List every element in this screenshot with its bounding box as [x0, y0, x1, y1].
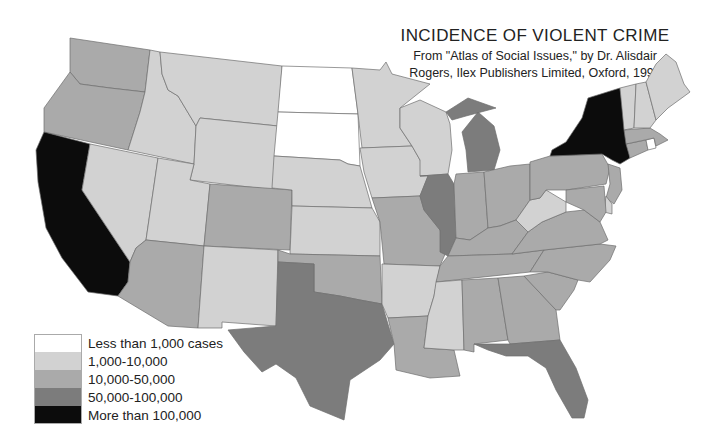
legend-item-50000-100000: 50,000-100,000	[34, 388, 223, 406]
legend-label: Less than 1,000 cases	[88, 336, 223, 351]
legend-item-more-than-100000: More than 100,000	[34, 406, 223, 424]
legend-label: 10,000-50,000	[88, 372, 175, 387]
state-WY	[190, 118, 278, 190]
state-IN	[454, 172, 488, 240]
state-CO	[204, 184, 292, 250]
legend-label: 50,000-100,000	[88, 390, 183, 405]
legend-swatch-black	[34, 406, 82, 424]
state-KS	[290, 206, 380, 256]
state-NM	[198, 246, 278, 328]
state-NY	[550, 88, 630, 164]
state-MI	[446, 98, 500, 172]
legend-item-10000-50000: 10,000-50,000	[34, 370, 223, 388]
map-legend: Less than 1,000 cases 1,000-10,000 10,00…	[34, 334, 223, 424]
state-ND	[278, 66, 358, 114]
state-WA	[70, 38, 150, 92]
legend-swatch-medium-gray	[34, 370, 82, 388]
legend-item-less-than-1000: Less than 1,000 cases	[34, 334, 223, 352]
legend-swatch-white	[34, 334, 82, 352]
legend-swatch-light-gray	[34, 352, 82, 370]
legend-label: More than 100,000	[88, 408, 201, 423]
legend-swatch-dark-gray	[34, 388, 82, 406]
legend-item-1000-10000: 1,000-10,000	[34, 352, 223, 370]
state-NJ	[606, 164, 622, 204]
legend-label: 1,000-10,000	[88, 354, 168, 369]
state-FL	[474, 340, 588, 418]
